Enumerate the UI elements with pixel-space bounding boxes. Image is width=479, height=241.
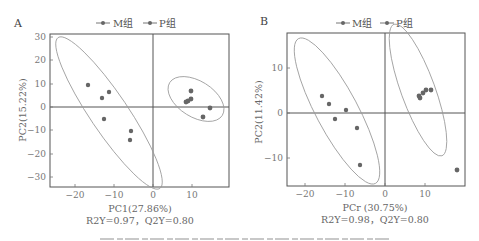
data-point — [320, 94, 324, 98]
x-tick-label: 0 — [150, 190, 156, 200]
legend-p-label: P组 — [159, 17, 176, 29]
data-point — [358, 163, 362, 167]
x-axis-title: PC1(27.86%) — [108, 203, 171, 214]
data-point — [189, 89, 194, 94]
data-point — [429, 88, 434, 93]
data-point — [424, 88, 429, 93]
plot-frame — [287, 33, 465, 186]
y-tick-label: 0 — [277, 108, 283, 118]
y-tick-label: −30 — [27, 172, 46, 182]
legend-p-marker-icon — [148, 21, 152, 25]
legend: M组 P组 — [336, 17, 413, 29]
data-point — [102, 117, 106, 121]
confidence-ellipse-p — [160, 67, 232, 130]
y-tick-label: 30 — [35, 32, 47, 42]
series-m — [320, 94, 362, 167]
data-point — [100, 96, 104, 100]
legend-p-label: P组 — [396, 17, 413, 29]
panel-b: B M组 P组 10 0 −10 −20 −10 0 — [253, 15, 465, 225]
panel-letter: B — [260, 15, 268, 28]
plot-frame — [50, 34, 229, 187]
x-tick-label: −10 — [336, 189, 355, 199]
y-axis-title: PC2(11.42%) — [253, 80, 264, 143]
model-stats: R2Y=0.97，Q2Y=0.80 — [86, 215, 194, 226]
legend-m-label: M组 — [113, 17, 133, 29]
legend: M组 P组 — [96, 17, 176, 29]
confidence-ellipse-m — [280, 29, 394, 194]
data-point — [327, 102, 331, 106]
y-axis-title: PC2(15.22%) — [17, 78, 28, 141]
data-point — [344, 108, 348, 112]
x-axis-title: PCr (30.75%) — [343, 202, 408, 213]
y-tick-label: 20 — [35, 55, 47, 65]
legend-m-marker-icon — [101, 21, 105, 25]
figure: A M组 P组 30 20 10 0 −10 −20 −30 — [0, 0, 479, 241]
x-tick-label: −20 — [66, 190, 85, 200]
legend-m-label: M组 — [352, 17, 372, 29]
x-tick-label: −20 — [296, 189, 315, 199]
data-point — [129, 129, 133, 133]
x-tick-label: 0 — [382, 189, 388, 199]
x-tick-label: 10 — [419, 189, 431, 199]
x-tick-label: −10 — [105, 190, 124, 200]
panel-a: A M组 P组 30 20 10 0 −10 −20 −30 — [13, 17, 232, 226]
data-point — [455, 168, 460, 173]
series-m — [86, 83, 133, 142]
y-tick-label: −10 — [264, 153, 283, 163]
confidence-ellipse-m — [42, 27, 175, 199]
data-point — [107, 90, 111, 94]
data-point — [418, 96, 423, 101]
y-tick-label: 10 — [35, 79, 47, 89]
y-tick-label: 0 — [40, 102, 46, 112]
y-tick-label: 10 — [272, 63, 284, 73]
data-point — [208, 106, 213, 111]
data-point — [128, 138, 132, 142]
data-point — [355, 126, 359, 130]
data-point — [86, 83, 90, 87]
model-stats: R2Y=0.98，Q2Y=0.80 — [321, 214, 429, 225]
legend-p-marker-icon — [385, 21, 389, 25]
data-point — [184, 100, 189, 105]
confidence-ellipse-p — [378, 18, 458, 161]
panel-letter: A — [13, 17, 23, 30]
data-point — [333, 117, 337, 121]
data-point — [201, 115, 206, 120]
series-p — [417, 88, 460, 173]
y-tick-label: −20 — [27, 149, 46, 159]
y-tick-label: −10 — [27, 125, 46, 135]
x-tick-label: 10 — [186, 190, 198, 200]
legend-m-marker-icon — [341, 21, 345, 25]
